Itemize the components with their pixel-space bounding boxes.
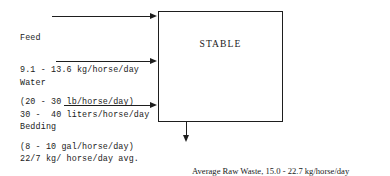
diagram-canvas: Feed 9.1 - 13.6 kg/horse/day (20 - 30 lb… — [0, 0, 390, 176]
connector-line-feed — [52, 16, 151, 17]
arrow-head-bedding-icon — [150, 102, 157, 108]
connector-line-bedding — [64, 105, 151, 106]
input-label-feed: Feed — [20, 33, 139, 44]
input-metric-bedding: 22/7 kg/ horse/day avg. — [20, 154, 139, 165]
input-block-bedding: Bedding 22/7 kg/ horse/day avg. (50 lb/h… — [20, 101, 139, 176]
connector-line-output — [186, 122, 187, 136]
input-label-water: Water — [20, 78, 149, 89]
arrow-head-water-icon — [150, 58, 157, 64]
input-label-bedding: Bedding — [20, 122, 139, 133]
arrow-head-output-icon — [183, 135, 189, 142]
output-caption: Average Raw Waste, 15.0 - 22.7 kg/horse/… — [192, 144, 349, 176]
connector-line-water — [56, 61, 151, 62]
stable-box-label: STABLE — [159, 38, 282, 49]
stable-process-box: STABLE — [158, 11, 283, 122]
arrow-head-feed-icon — [150, 13, 157, 19]
output-caption-line1: Average Raw Waste, 15.0 - 22.7 kg/horse/… — [192, 166, 349, 176]
